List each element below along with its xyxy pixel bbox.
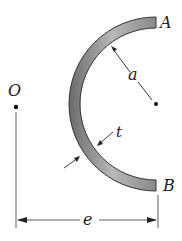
label-thickness: t	[116, 123, 123, 141]
label-a-point: A	[158, 13, 172, 32]
diagram: A B O a t e	[0, 0, 182, 241]
dimension-arrowhead-right	[147, 217, 157, 223]
semicircular-section	[69, 17, 156, 191]
label-b-point: B	[162, 176, 175, 195]
label-radius: a	[128, 65, 138, 84]
radius-arrowhead	[111, 46, 117, 52]
dimension-arrowhead-left	[17, 217, 27, 223]
thickness-arrowhead-inner	[74, 156, 80, 162]
radius-line	[138, 82, 152, 100]
label-o-point: O	[8, 81, 21, 100]
shear-center-dot	[14, 105, 18, 109]
center-dot	[154, 102, 158, 106]
label-eccentricity: e	[83, 210, 92, 229]
